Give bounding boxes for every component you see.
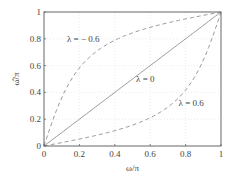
y-tick-label: 0.4 [30,87,42,97]
y-tick-label: 0.6 [30,61,42,71]
x-tick-label: 0.6 [145,149,157,159]
series-line [44,12,221,146]
curve-annotation: λ = 0 [136,74,155,84]
y-tick-label: 1 [37,7,42,17]
x-axis-label: ω/π [126,163,139,173]
x-tick-label: 0.2 [74,149,85,159]
y-tick-label: 0 [37,141,42,151]
x-tick-label: 0.8 [180,149,192,159]
x-tick-label: 1 [219,149,224,159]
chart-root: 00.20.40.60.8100.20.40.60.81ω/πω̂/πλ = −… [0,0,235,174]
curve-annotation: λ = − 0.6 [67,34,100,44]
warping-chart: 00.20.40.60.8100.20.40.60.81ω/πω̂/πλ = −… [0,0,235,174]
x-tick-label: 0.4 [109,149,121,159]
y-tick-label: 0.8 [30,34,42,44]
y-axis-label: ω̂/π [11,72,21,85]
curve-annotation: λ = 0.6 [179,98,205,108]
y-tick-label: 0.2 [30,114,41,124]
x-tick-label: 0 [42,149,47,159]
